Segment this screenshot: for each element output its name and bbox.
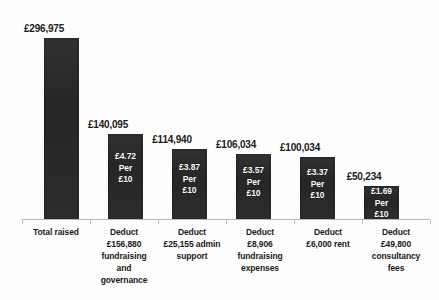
per-ten-per-2: Per	[108, 163, 143, 175]
bar-inner-label-5: £3.37 Per £10	[300, 167, 335, 202]
bar-inner-label-6: £1.69 Per £10	[364, 186, 399, 221]
category-label-2-line2: £156,880	[90, 238, 158, 250]
per-ten-per-6: Per	[364, 198, 399, 210]
category-axis-labels: Total raised Deduct £156,880 fundraising…	[0, 226, 439, 300]
bar-total-raised[interactable]	[44, 38, 79, 220]
axis-tick-7	[430, 220, 431, 224]
bar-deduct-fundraising-governance[interactable]: £4.72 Per £10	[108, 134, 143, 220]
bar-value-label-3: £114,940	[152, 134, 192, 145]
bar-inner-label-3: £3.87 Per £10	[172, 162, 207, 197]
category-label-2-line4: and	[90, 262, 158, 274]
per-ten-amount-3: £3.87	[172, 162, 207, 174]
per-ten-per-4: Per	[236, 177, 271, 189]
category-label-1: Total raised	[22, 226, 90, 238]
category-label-5: Deduct £6,000 rent	[292, 226, 364, 250]
category-label-6-line4: fees	[362, 262, 430, 274]
per-ten-per-5: Per	[300, 179, 335, 191]
category-label-4-line3: fundraising	[226, 250, 294, 262]
bar-inner-label-2: £4.72 Per £10	[108, 151, 143, 186]
axis-tick-4	[226, 220, 227, 224]
category-label-4-line4: expenses	[226, 262, 294, 274]
category-label-3-line2: £25,155 admin	[156, 238, 228, 250]
fundraising-waterfall-chart: £296,975 £140,095 £4.72 Per £10 £114,940…	[0, 0, 439, 300]
bar-value-label-1: £296,975	[24, 23, 64, 34]
per-ten-ten-2: £10	[108, 174, 143, 186]
bar-deduct-admin-support[interactable]: £3.87 Per £10	[172, 149, 207, 220]
category-label-3-line3: support	[156, 250, 228, 262]
category-label-4-line2: £8,906	[226, 238, 294, 250]
per-ten-amount-4: £3.57	[236, 165, 271, 177]
category-label-2-line5: governance	[90, 274, 158, 286]
per-ten-amount-5: £3.37	[300, 167, 335, 179]
bar-deduct-rent[interactable]: £3.37 Per £10	[300, 157, 335, 220]
bar-value-label-6: £50,234	[347, 171, 382, 182]
category-label-2: Deduct £156,880 fundraising and governan…	[90, 226, 158, 286]
category-label-3: Deduct £25,155 admin support	[156, 226, 228, 262]
bar-value-label-2: £140,095	[88, 119, 128, 130]
bar-value-label-4: £106,034	[216, 139, 256, 150]
per-ten-amount-2: £4.72	[108, 151, 143, 163]
category-label-4-line1: Deduct	[226, 226, 294, 238]
category-label-4: Deduct £8,906 fundraising expenses	[226, 226, 294, 274]
per-ten-ten-3: £10	[172, 185, 207, 197]
per-ten-amount-6: £1.69	[364, 186, 399, 198]
category-label-6: Deduct £49,800 consultancy fees	[362, 226, 430, 274]
axis-tick-2	[90, 220, 91, 224]
axis-tick-6	[362, 220, 363, 224]
category-label-2-line1: Deduct	[90, 226, 158, 238]
per-ten-per-3: Per	[172, 174, 207, 186]
axis-tick-5	[294, 220, 295, 224]
axis-tick-1	[22, 220, 23, 224]
category-label-6-line1: Deduct	[362, 226, 430, 238]
category-label-5-line1: Deduct	[292, 226, 364, 238]
plot-area: £296,975 £140,095 £4.72 Per £10 £114,940…	[0, 0, 439, 220]
axis-tick-3	[158, 220, 159, 224]
bar-deduct-consultancy-fees[interactable]: £1.69 Per £10	[364, 186, 399, 220]
category-label-6-line3: consultancy	[362, 250, 430, 262]
category-label-1-line1: Total raised	[22, 226, 90, 238]
bar-value-label-5: £100,034	[280, 142, 320, 153]
category-label-5-line2: £6,000 rent	[292, 238, 364, 250]
per-ten-ten-5: £10	[300, 190, 335, 202]
category-label-6-line2: £49,800	[362, 238, 430, 250]
per-ten-ten-4: £10	[236, 188, 271, 200]
bar-inner-label-4: £3.57 Per £10	[236, 165, 271, 200]
bar-deduct-fundraising-expenses[interactable]: £3.57 Per £10	[236, 154, 271, 220]
category-label-2-line3: fundraising	[90, 250, 158, 262]
category-label-3-line1: Deduct	[156, 226, 228, 238]
